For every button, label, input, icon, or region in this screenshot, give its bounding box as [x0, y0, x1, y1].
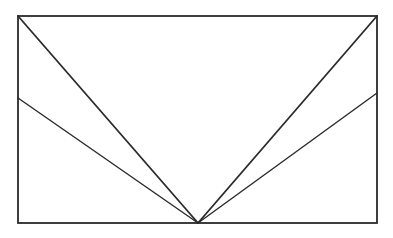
line-diagram — [0, 0, 393, 238]
top-right-diagonal — [198, 16, 377, 223]
top-left-diagonal — [18, 16, 198, 223]
left-mid-line — [18, 98, 198, 223]
right-mid-line — [198, 93, 377, 223]
converging-lines — [18, 16, 377, 223]
outer-rectangle — [18, 16, 377, 223]
